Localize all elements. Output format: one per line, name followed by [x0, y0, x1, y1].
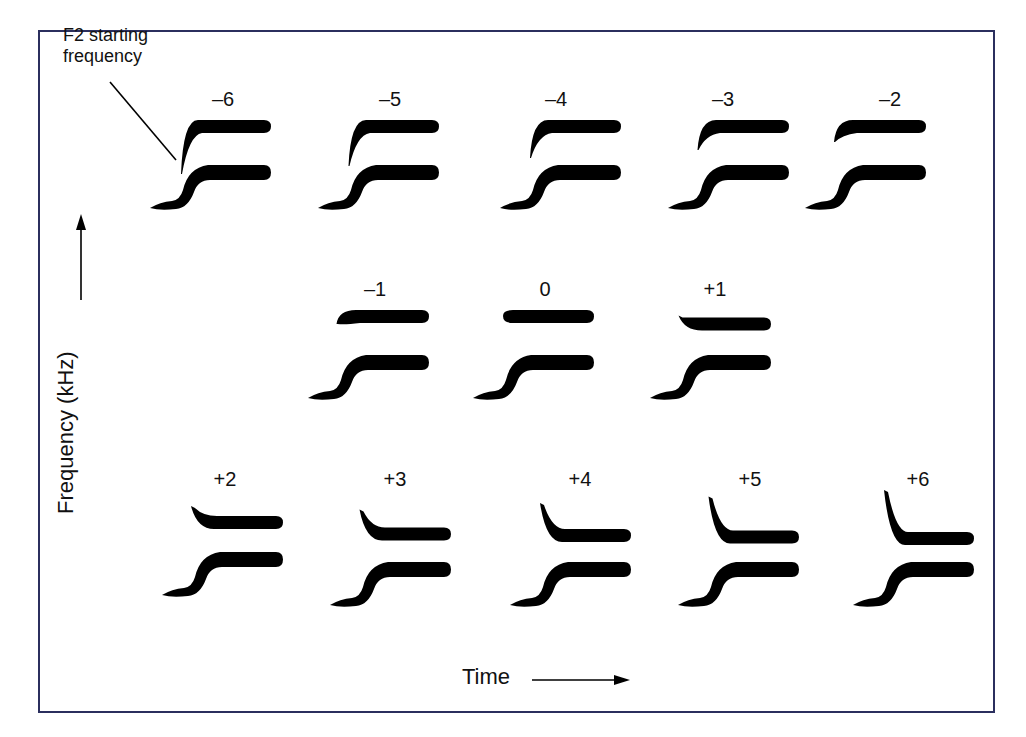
f2-formant-shape: [698, 120, 790, 150]
y-axis-arrow-icon: [76, 214, 86, 300]
f1-formant-shape: [510, 562, 631, 607]
formant-pattern: [473, 310, 594, 400]
f2-formant-shape: [191, 506, 283, 529]
f2-formant-shape: [503, 310, 594, 323]
f2-formant-shape: [360, 510, 452, 541]
f1-formant-shape: [668, 165, 789, 210]
formant-pattern: [330, 510, 451, 607]
f1-formant-shape: [473, 355, 594, 400]
f1-formant-shape: [330, 562, 451, 607]
formant-pattern: [650, 316, 771, 400]
formant-pattern: [500, 120, 621, 210]
f1-formant-shape: [853, 562, 974, 607]
formant-pattern: [668, 120, 789, 210]
formant-pattern: [678, 497, 799, 607]
f1-formant-shape: [500, 165, 621, 210]
f1-formant-shape: [805, 165, 926, 210]
f1-formant-shape: [318, 165, 439, 210]
f2-formant-shape: [834, 120, 926, 142]
formant-pattern: [318, 120, 439, 210]
f1-formant-shape: [678, 562, 799, 607]
formant-pattern: [805, 120, 926, 210]
formant-pattern: [308, 310, 429, 400]
f2-formant-shape: [679, 316, 772, 331]
f2-formant-shape: [709, 497, 800, 544]
f1-formant-shape: [162, 552, 283, 597]
formant-pattern: [510, 503, 631, 607]
formant-pattern: [162, 506, 283, 597]
f2-formant-shape: [530, 120, 621, 158]
f2-formant-shape: [540, 503, 631, 542]
formant-pattern: [853, 490, 974, 607]
formant-pattern: [150, 120, 271, 210]
f1-formant-shape: [650, 355, 771, 400]
formant-diagram: [0, 0, 1026, 737]
x-axis-arrow-icon: [532, 675, 630, 685]
f2-formant-shape: [337, 310, 430, 324]
f2-formant-shape: [884, 490, 974, 545]
f1-formant-shape: [308, 355, 429, 400]
f1-formant-shape: [150, 165, 271, 210]
callout-leader-line: [110, 82, 176, 160]
f2-formant-shape: [349, 120, 440, 166]
